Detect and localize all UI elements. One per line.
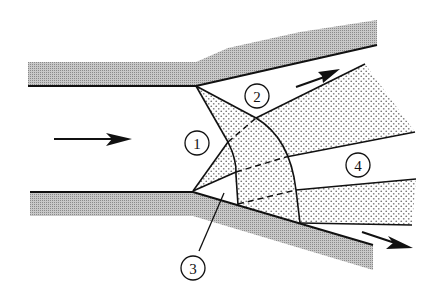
shock-expansion-diagram: 1 2 3 4 [0,0,448,299]
label-2: 2 [245,84,269,108]
label-1-text: 1 [193,136,201,152]
label-1: 1 [185,131,209,155]
inflow-arrow [54,133,132,146]
label-3: 3 [181,256,205,280]
label-4-text: 4 [354,158,362,174]
label-3-text: 3 [189,261,197,277]
label-2-text: 2 [253,89,261,105]
label-4: 4 [346,153,370,177]
